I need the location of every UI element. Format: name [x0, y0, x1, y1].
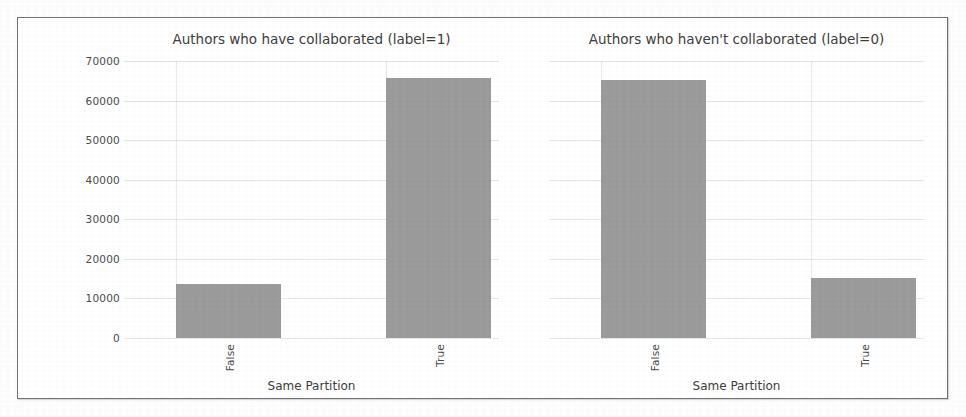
x-axis-label-right: Same Partition	[549, 379, 924, 393]
x-axis-label-left: Same Partition	[124, 379, 499, 393]
bar-right-false	[601, 80, 706, 338]
bar-left-false	[176, 284, 281, 338]
x-tick-right-false: False	[649, 344, 661, 371]
figure-frame: 70000 60000 50000 40000 30000 20000 1000…	[17, 17, 948, 399]
y-tick-60000: 60000	[86, 95, 120, 107]
bar-chart-figure: 70000 60000 50000 40000 30000 20000 1000…	[18, 18, 947, 398]
y-tick-20000: 20000	[86, 253, 120, 265]
x-tick-left-true: True	[434, 344, 446, 367]
subplot-label-0: Authors who haven't collaborated (label=…	[549, 61, 924, 338]
gridline-70000	[124, 61, 499, 62]
y-tick-50000: 50000	[86, 134, 120, 146]
y-tick-40000: 40000	[86, 174, 120, 186]
scanned-page: 70000 60000 50000 40000 30000 20000 1000…	[0, 0, 966, 417]
subplot-left-title: Authors who have collaborated (label=1)	[124, 31, 499, 47]
gridline-0	[549, 338, 924, 339]
x-tick-right-true: True	[859, 344, 871, 367]
y-tick-10000: 10000	[86, 292, 120, 304]
subplot-label-1: Authors who have collaborated (label=1) …	[124, 61, 499, 338]
gridline-70000	[549, 61, 924, 62]
subplot-right-title: Authors who haven't collaborated (label=…	[549, 31, 924, 47]
y-tick-70000: 70000	[86, 55, 120, 67]
bar-left-true	[386, 78, 491, 338]
y-tick-0: 0	[113, 332, 120, 344]
x-tick-left-false: False	[224, 344, 236, 371]
y-tick-30000: 30000	[86, 213, 120, 225]
gridline-0	[124, 338, 499, 339]
y-axis-tick-labels: 70000 60000 50000 40000 30000 20000 1000…	[56, 18, 120, 398]
bar-right-true	[811, 278, 916, 338]
